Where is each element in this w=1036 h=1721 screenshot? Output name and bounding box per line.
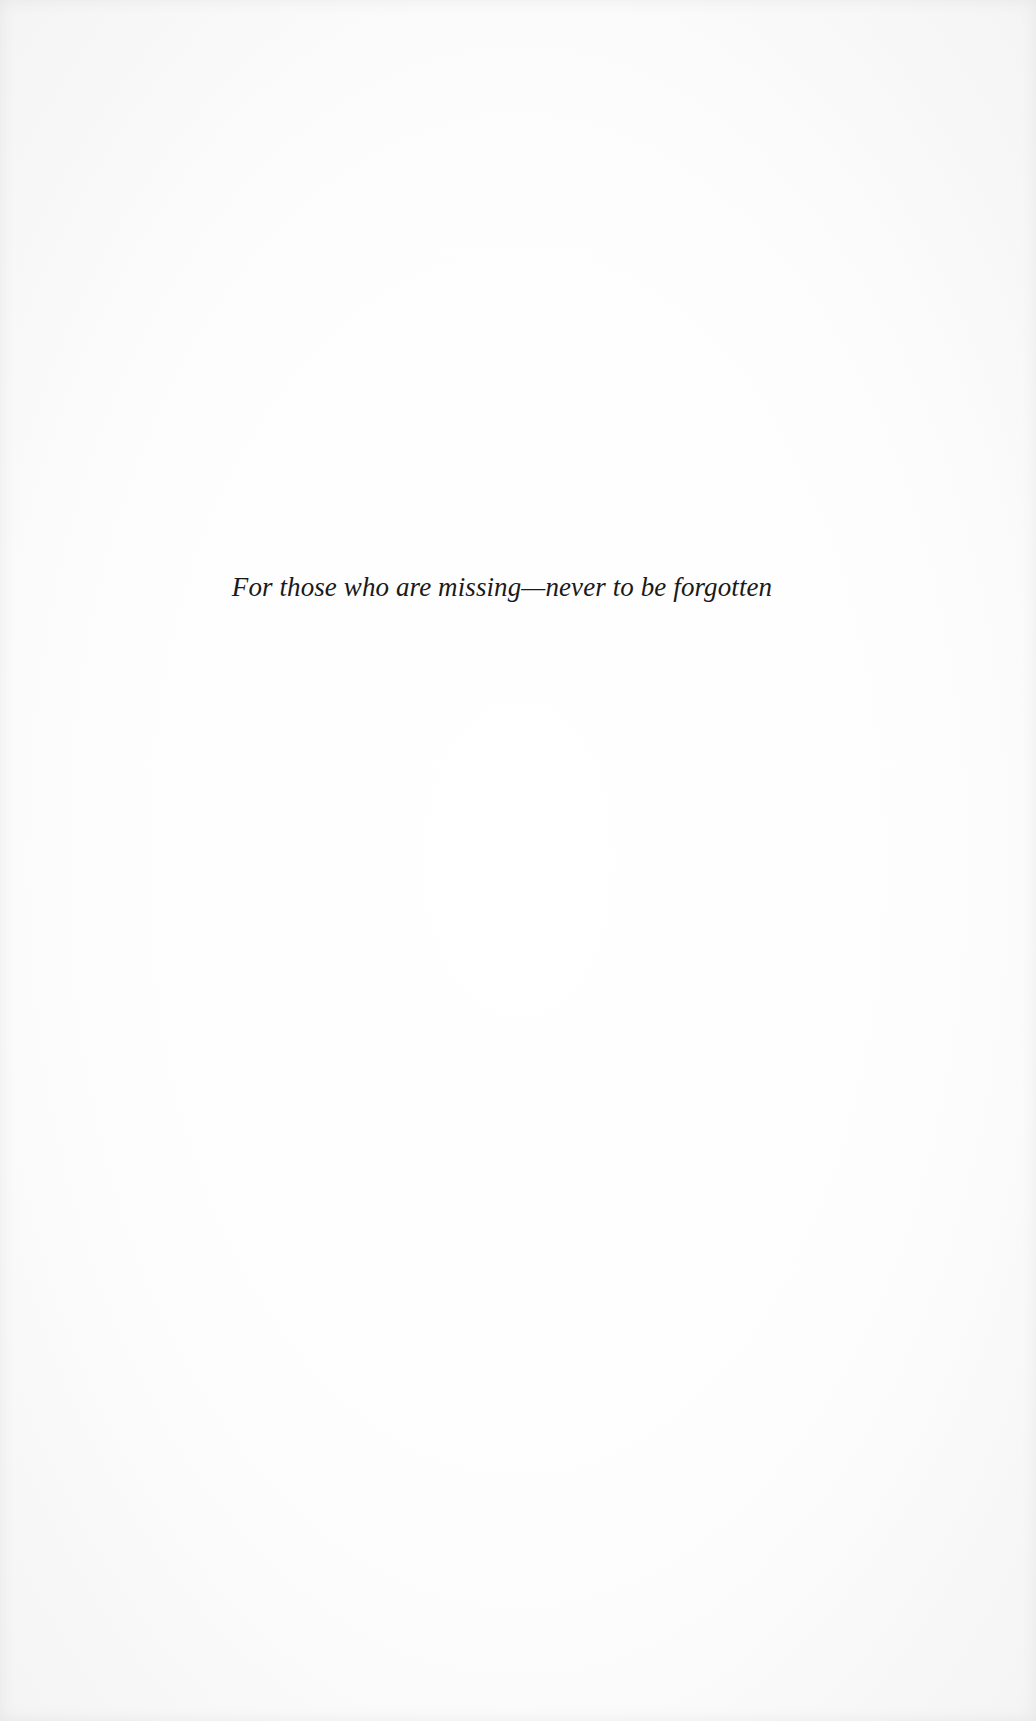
book-page: For those who are missing—never to be fo… <box>0 0 1036 1721</box>
dedication-text: For those who are missing—never to be fo… <box>0 570 1004 604</box>
